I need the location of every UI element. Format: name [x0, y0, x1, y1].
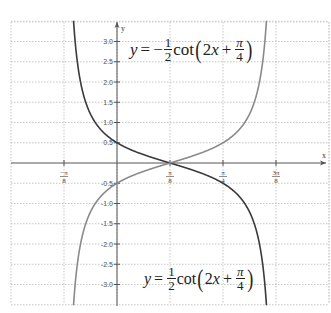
- eq-plus: +: [223, 270, 232, 288]
- eq-y: y: [130, 40, 138, 60]
- y-tick-label: -2.5: [101, 261, 113, 268]
- y-tick-label: -0.5: [101, 180, 113, 187]
- eq-fn: cot: [177, 270, 197, 288]
- eq-den: 2: [165, 50, 172, 63]
- x-tick-label-den: 8: [274, 177, 278, 185]
- eq-y: y: [144, 270, 151, 288]
- eq-sign: −: [153, 40, 163, 60]
- x-tick-label-den: 8: [168, 177, 172, 185]
- eq-pi-fraction: π 4: [236, 265, 245, 292]
- y-tick-label: 1.0: [103, 119, 113, 126]
- y-tick-label: 0.5: [103, 139, 113, 146]
- eq-equals: =: [154, 270, 163, 288]
- eq-x: x: [211, 40, 219, 60]
- y-tick-label: 2.0: [103, 79, 113, 86]
- y-tick-label: 2.5: [103, 58, 113, 65]
- y-tick-label: 1.5: [103, 99, 113, 106]
- x-tick-label-num: π: [221, 169, 225, 177]
- x-tick-label-num: −π: [60, 169, 68, 177]
- y-axis-label: y: [121, 24, 125, 33]
- eq-fraction: 1 2: [167, 265, 176, 292]
- eq-rparen: ): [247, 266, 253, 292]
- x-axis-label: x: [322, 151, 326, 160]
- y-tick-label: -1.5: [101, 220, 113, 227]
- y-tick-label: 3.0: [103, 38, 113, 45]
- eq-coef: 2: [205, 270, 213, 288]
- y-tick-label: -3.0: [101, 281, 113, 288]
- eq-equals: =: [141, 40, 151, 60]
- eq-num: 1: [164, 36, 173, 50]
- equation-top-label: y = − 1 2 cot ( 2 x + π 4 ): [130, 36, 254, 63]
- eq-plus: +: [222, 40, 232, 60]
- eq-rparen: ): [246, 37, 252, 63]
- x-tick-label-num: 3π: [272, 169, 280, 177]
- y-tick-label: -2.0: [101, 241, 113, 248]
- eq-pi: π: [235, 36, 244, 50]
- eq-fn: cot: [173, 40, 194, 60]
- eq-fraction: 1 2: [164, 36, 173, 63]
- eq-den: 2: [168, 279, 175, 292]
- eq-coef: 2: [203, 40, 212, 60]
- eq-lparen: (: [197, 266, 203, 292]
- equation-bottom-label: y = 1 2 cot ( 2 x + π 4 ): [144, 265, 254, 292]
- eq-x: x: [213, 270, 220, 288]
- eq-four: 4: [236, 50, 243, 63]
- eq-four: 4: [237, 279, 244, 292]
- eq-lparen: (: [195, 37, 201, 63]
- eq-num: 1: [167, 265, 176, 279]
- eq-pi-fraction: π 4: [235, 36, 244, 63]
- y-tick-label: -1.0: [101, 200, 113, 207]
- x-tick-label-num: π: [168, 169, 172, 177]
- x-tick-label-den: 8: [62, 177, 66, 185]
- eq-pi: π: [236, 265, 245, 279]
